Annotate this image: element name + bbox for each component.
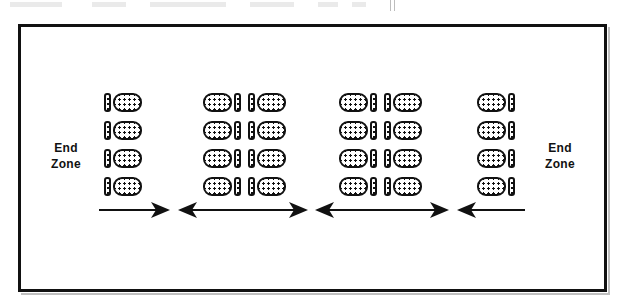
marker-bar-icon	[384, 93, 391, 112]
marker-bar-icon	[248, 121, 255, 140]
player-oval-icon	[477, 121, 506, 140]
formation-row	[104, 177, 142, 196]
marker-bar-icon	[104, 93, 111, 112]
marker-bar-icon	[508, 177, 515, 196]
arrow-double-3	[315, 198, 449, 222]
player-group-2	[203, 93, 286, 196]
marker-bar-icon	[104, 121, 111, 140]
scan-artifact-strip	[0, 0, 624, 12]
formation-row	[477, 121, 515, 140]
marker-bar-icon	[384, 149, 391, 168]
end-zone-right-line1: End	[528, 140, 592, 156]
end-zone-right-line2: Zone	[528, 156, 592, 172]
formation-row	[477, 93, 515, 112]
marker-bar-icon	[370, 177, 377, 196]
marker-bar-icon	[234, 121, 241, 140]
arrow-double-2	[178, 198, 308, 222]
marker-bar-icon	[104, 149, 111, 168]
formation-row	[339, 177, 422, 196]
formation-row	[104, 93, 142, 112]
arrow-left-4	[457, 198, 525, 222]
marker-bar-icon	[248, 93, 255, 112]
formation-row	[104, 149, 142, 168]
arrow-right-1	[99, 198, 171, 222]
marker-bar-icon	[508, 93, 515, 112]
marker-bar-icon	[234, 149, 241, 168]
formation-row	[203, 93, 286, 112]
formation-row	[203, 121, 286, 140]
player-oval-icon	[203, 149, 232, 168]
formation-row	[339, 121, 422, 140]
formation-row	[104, 121, 142, 140]
formation-row	[477, 177, 515, 196]
player-oval-icon	[257, 149, 286, 168]
player-oval-icon	[393, 93, 422, 112]
marker-bar-icon	[370, 93, 377, 112]
marker-bar-icon	[384, 121, 391, 140]
marker-bar-icon	[370, 149, 377, 168]
end-zone-label-right: End Zone	[528, 140, 592, 172]
marker-bar-icon	[508, 121, 515, 140]
player-oval-icon	[257, 177, 286, 196]
player-oval-icon	[477, 93, 506, 112]
player-oval-icon	[339, 121, 368, 140]
marker-bar-icon	[384, 177, 391, 196]
player-oval-icon	[339, 177, 368, 196]
player-oval-icon	[339, 149, 368, 168]
movement-arrows	[0, 198, 624, 222]
formation-row	[203, 149, 286, 168]
player-oval-icon	[257, 121, 286, 140]
player-oval-icon	[393, 121, 422, 140]
player-oval-icon	[113, 93, 142, 112]
player-group-1	[104, 93, 142, 196]
player-oval-icon	[393, 177, 422, 196]
formation-row	[339, 93, 422, 112]
marker-bar-icon	[234, 177, 241, 196]
player-group-4	[477, 93, 515, 196]
player-oval-icon	[257, 93, 286, 112]
marker-bar-icon	[234, 93, 241, 112]
marker-bar-icon	[370, 121, 377, 140]
end-zone-label-left: End Zone	[34, 140, 98, 172]
formation-row	[477, 149, 515, 168]
player-oval-icon	[203, 121, 232, 140]
player-oval-icon	[393, 149, 422, 168]
marker-bar-icon	[248, 149, 255, 168]
formation-row	[203, 177, 286, 196]
player-oval-icon	[113, 149, 142, 168]
player-oval-icon	[477, 177, 506, 196]
player-oval-icon	[339, 93, 368, 112]
marker-bar-icon	[248, 177, 255, 196]
page-root: End Zone End Zone	[0, 0, 624, 305]
end-zone-left-line1: End	[34, 140, 98, 156]
player-group-3	[339, 93, 422, 196]
marker-bar-icon	[104, 177, 111, 196]
player-oval-icon	[203, 93, 232, 112]
player-oval-icon	[113, 177, 142, 196]
marker-bar-icon	[508, 149, 515, 168]
player-oval-icon	[477, 149, 506, 168]
end-zone-left-line2: Zone	[34, 156, 98, 172]
formation-row	[339, 149, 422, 168]
player-oval-icon	[113, 121, 142, 140]
player-oval-icon	[203, 177, 232, 196]
